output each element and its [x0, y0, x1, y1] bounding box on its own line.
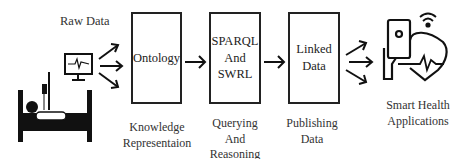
knowledge-representation-caption: Knowledge Representaion: [112, 120, 202, 151]
raw-data-arrows: [99, 44, 122, 88]
ontology-box: Ontology: [131, 12, 182, 104]
patient-bed-icon: [18, 72, 92, 142]
smart-health-caption: Smart Health Applications: [378, 98, 458, 129]
querying-reasoning-caption: Querying And Reasoning: [195, 116, 275, 159]
smart-health-icon: [384, 14, 447, 81]
linked-data-box: Linked Data: [288, 12, 340, 104]
vital-monitor-icon: [65, 54, 92, 80]
sparql-swrl-box: SPARQL And SWRL: [209, 12, 261, 104]
output-arrows: [346, 41, 372, 84]
publishing-data-caption: Publishing Data: [272, 116, 352, 147]
raw-data-label: Raw Data: [60, 13, 110, 29]
